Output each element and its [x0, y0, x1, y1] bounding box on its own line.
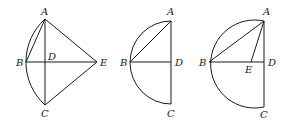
- label-e: E: [99, 57, 108, 68]
- label-c: C: [167, 108, 175, 119]
- segment-ab: [130, 21, 171, 62]
- arc-abc: [211, 20, 264, 108]
- figure-3: A B E D C: [198, 6, 276, 120]
- figure-2: A B D C: [119, 6, 183, 119]
- segment-ce: [45, 62, 97, 105]
- segment-ab: [209, 21, 264, 62]
- geometry-diagram: A B D E C A B D C A B E D C: [0, 0, 287, 131]
- label-c: C: [260, 109, 268, 120]
- label-b: B: [198, 57, 206, 68]
- label-e: E: [244, 64, 253, 75]
- label-b: B: [15, 57, 23, 68]
- segment-ae: [251, 21, 264, 62]
- label-d: D: [267, 57, 276, 68]
- figure-1: A B D E C: [15, 6, 108, 119]
- label-a: A: [40, 6, 48, 17]
- label-b: B: [119, 57, 127, 68]
- label-c: C: [41, 108, 49, 119]
- label-d: D: [174, 57, 183, 68]
- label-d: D: [47, 51, 56, 62]
- segment-ab: [26, 19, 45, 62]
- label-a: A: [166, 6, 174, 17]
- label-a: A: [262, 6, 270, 17]
